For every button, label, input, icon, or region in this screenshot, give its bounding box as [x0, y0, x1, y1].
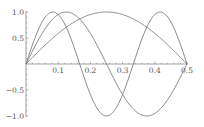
- y-tick-label: 0.5: [12, 34, 24, 43]
- x-tick-label: 0.2: [84, 66, 96, 75]
- plot-area: 0.10.20.30.40.51.00.5−0.5−1.0: [0, 0, 204, 127]
- y-tick-label: 1.0: [12, 8, 24, 17]
- series-line-1: [26, 12, 187, 64]
- y-tick-label: −1.0: [6, 112, 24, 121]
- chart: 0.10.20.30.40.51.00.5−0.5−1.0: [0, 0, 204, 127]
- x-tick-label: 0.1: [52, 66, 64, 75]
- x-tick-label: 0.4: [149, 66, 161, 75]
- y-tick-label: −0.5: [6, 86, 24, 95]
- x-tick-label: 0.5: [181, 66, 193, 75]
- x-tick-label: 0.3: [117, 66, 129, 75]
